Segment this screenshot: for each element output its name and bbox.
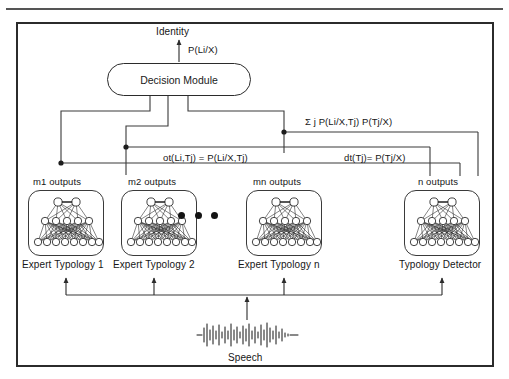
page-rule-divider [6, 8, 503, 10]
module-label-expert-typology-n: Expert Typology n [238, 259, 320, 270]
expert-typology-2-network[interactable] [121, 190, 197, 256]
decision-module-label: Decision Module [140, 74, 218, 86]
module-label-expert-typology-1: Expert Typology 1 [22, 259, 104, 270]
sum-rule-edge-label: Σ j P(Li/X,Tj) P(Tj/X) [305, 116, 392, 127]
identity-edge-label: P(Li/X) [188, 44, 218, 55]
output-count-m1: m1 outputs [33, 176, 81, 187]
typology-detector-network[interactable] [404, 190, 480, 256]
decision-module-block[interactable]: Decision Module [107, 63, 251, 96]
ellipsis-dot [195, 212, 202, 219]
expert-typology-n-network[interactable] [246, 190, 322, 256]
ellipsis-dot [178, 212, 185, 219]
expert-output-edge-label: ot(Li,Tj) = P(Li/X,Tj) [163, 152, 248, 163]
expert-typology-1-network[interactable] [28, 190, 104, 256]
output-count-mn: mn outputs [253, 176, 301, 187]
module-label-expert-typology-2: Expert Typology 2 [113, 259, 195, 270]
ellipsis-dot [211, 212, 218, 219]
speech-input-label: Speech [228, 352, 263, 363]
module-label-typology-detector: Typology Detector [399, 259, 481, 270]
detector-output-edge-label: dt(Tj)= P(Tj/X) [344, 152, 405, 163]
output-count-n: n outputs [418, 176, 458, 187]
output-count-m2: m2 outputs [128, 176, 176, 187]
ellipsis-indicator [178, 212, 218, 219]
identity-output-label: Identity [156, 26, 189, 37]
